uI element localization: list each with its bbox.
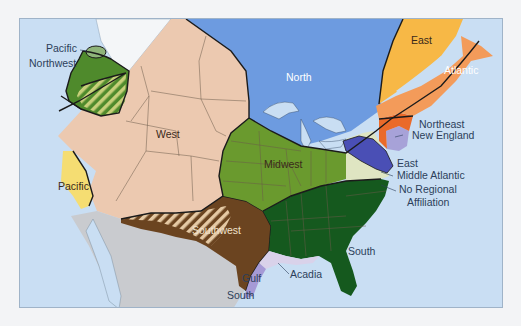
label-east: East (411, 34, 432, 46)
label-south: South (348, 245, 376, 257)
label-east-middle-atlantic-line2: Middle Atlantic (397, 169, 465, 181)
label-pacific-northwest-line2: Northwest (29, 57, 76, 69)
label-midwest: Midwest (264, 158, 303, 170)
label-gulf-south-line1: Gulf (242, 272, 261, 284)
label-west: West (156, 128, 180, 140)
label-new-england: New England (412, 129, 475, 141)
label-southwest: Southwest (192, 224, 241, 236)
label-acadia: Acadia (290, 268, 322, 280)
label-atlantic: Atlantic (444, 64, 478, 76)
label-east-middle-atlantic-line1: East (397, 157, 418, 169)
label-pacific: Pacific (58, 180, 89, 192)
label-gulf-south-line2: South (227, 289, 255, 301)
label-no-regional-affiliation-line1: No Regional (399, 183, 457, 195)
label-north: North (286, 71, 312, 83)
label-pacific-northwest-line1: Pacific (46, 42, 77, 54)
label-no-regional-affiliation-line2: Affiliation (407, 196, 450, 208)
dialect-regions-map: Pacific Northwest West Pacific North Eas… (19, 18, 503, 308)
